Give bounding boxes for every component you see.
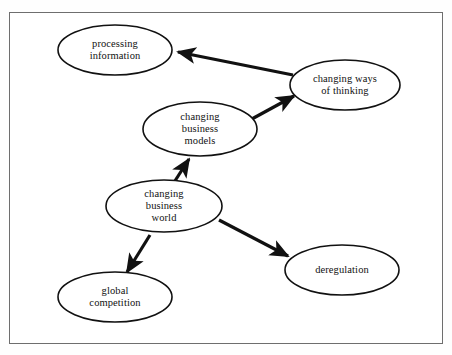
node-ellipse-changing-ways-of-thinking[interactable]	[290, 60, 400, 110]
diagram-canvas: processing informationchanging ways of t…	[0, 0, 452, 355]
node-ellipse-global-competition[interactable]	[58, 272, 172, 322]
node-ellipse-deregulation[interactable]	[285, 245, 399, 295]
node-ellipse-changing-business-world[interactable]	[106, 180, 222, 232]
nodes-layer	[58, 25, 400, 322]
node-ellipse-processing-information[interactable]	[58, 25, 172, 75]
edges-layer	[127, 52, 294, 272]
arrow-world-to-global-competition	[127, 235, 150, 272]
node-ellipse-changing-business-models[interactable]	[143, 102, 257, 156]
arrow-world-to-deregulation	[219, 220, 288, 256]
arrow-models-to-thinking	[250, 96, 294, 120]
arrow-thinking-to-processing	[178, 52, 293, 75]
diagram-graphics	[0, 0, 452, 355]
